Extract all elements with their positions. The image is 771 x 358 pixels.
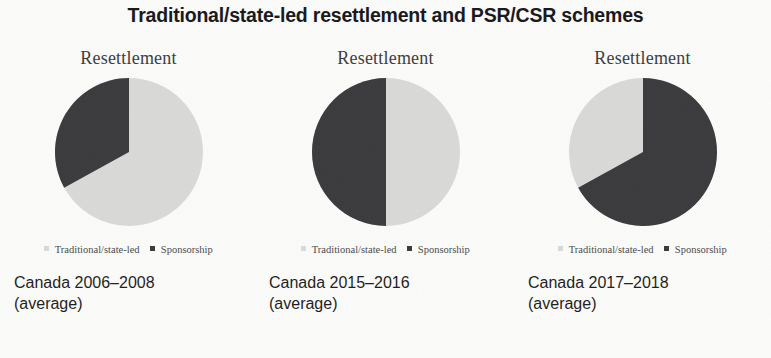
pie-slice-sponsorship-2 xyxy=(312,78,386,226)
pie-caption-line2: (average) xyxy=(528,293,771,314)
legend-entry-traditional: Traditional/state-led xyxy=(558,243,653,255)
legend-swatch-sponsorship-icon xyxy=(664,246,669,251)
pie-panel-canada-2017-2018: Resettlement Traditional/state-led Spons… xyxy=(514,40,771,358)
legend-entry-traditional: Traditional/state-led xyxy=(44,243,139,255)
pie-chart-1 xyxy=(0,76,257,232)
legend-entry-sponsorship: Sponsorship xyxy=(407,243,470,255)
pie-legend-2: Traditional/state-led Sponsorship xyxy=(257,243,514,255)
figure-title: Traditional/state-led resettlement and P… xyxy=(0,4,771,27)
legend-swatch-traditional-icon xyxy=(301,246,306,251)
legend-label-sponsorship: Sponsorship xyxy=(161,244,213,255)
legend-swatch-sponsorship-icon xyxy=(150,246,155,251)
legend-entry-sponsorship: Sponsorship xyxy=(664,243,727,255)
pie-caption-line1: Canada 2015–2016 xyxy=(269,272,526,293)
pie-caption-1: Canada 2006–2008 (average) xyxy=(14,272,271,314)
pie-svg-2 xyxy=(310,76,462,228)
pie-legend-1: Traditional/state-led Sponsorship xyxy=(0,243,257,255)
pie-caption-line2: (average) xyxy=(14,293,271,314)
legend-label-traditional: Traditional/state-led xyxy=(312,244,397,255)
pie-chart-2 xyxy=(257,76,514,232)
pie-panel-row: Resettlement Traditional/state-led Spons… xyxy=(0,40,771,358)
pie-caption-line1: Canada 2017–2018 xyxy=(528,272,771,293)
pie-caption-2: Canada 2015–2016 (average) xyxy=(269,272,526,314)
pie-caption-line1: Canada 2006–2008 xyxy=(14,272,271,293)
legend-label-sponsorship: Sponsorship xyxy=(418,244,470,255)
legend-entry-traditional: Traditional/state-led xyxy=(301,243,396,255)
legend-label-sponsorship: Sponsorship xyxy=(675,244,727,255)
pie-legend-3: Traditional/state-led Sponsorship xyxy=(514,243,771,255)
pie-caption-3: Canada 2017–2018 (average) xyxy=(528,272,771,314)
pie-panel-canada-2015-2016: Resettlement Traditional/state-led Spons… xyxy=(257,40,514,358)
pie-heading: Resettlement xyxy=(257,48,514,69)
pie-heading: Resettlement xyxy=(514,48,771,69)
legend-swatch-traditional-icon xyxy=(44,246,49,251)
pie-svg-1 xyxy=(53,76,205,228)
pie-heading: Resettlement xyxy=(0,48,257,69)
legend-label-traditional: Traditional/state-led xyxy=(55,244,140,255)
pie-caption-line2: (average) xyxy=(269,293,526,314)
legend-entry-sponsorship: Sponsorship xyxy=(150,243,213,255)
pie-svg-3 xyxy=(567,76,719,228)
legend-label-traditional: Traditional/state-led xyxy=(569,244,654,255)
pie-chart-3 xyxy=(514,76,771,232)
figure-container: Traditional/state-led resettlement and P… xyxy=(0,0,771,358)
pie-panel-canada-2006-2008: Resettlement Traditional/state-led Spons… xyxy=(0,40,257,358)
legend-swatch-sponsorship-icon xyxy=(407,246,412,251)
legend-swatch-traditional-icon xyxy=(558,246,563,251)
